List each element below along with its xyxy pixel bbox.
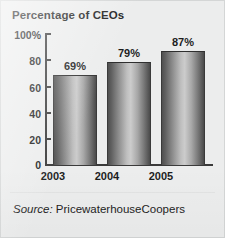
frame-border-bottom [0, 237, 225, 238]
x-tick-label-2004: 2004 [77, 170, 137, 182]
bar-2003[interactable] [53, 75, 97, 165]
footer-divider [10, 192, 215, 193]
y-tick-label-100: 100% [1, 30, 41, 41]
x-tick-label-2005: 2005 [131, 170, 191, 182]
bar-2005[interactable] [161, 51, 205, 165]
y-tick-label-60: 60 [1, 83, 41, 94]
source-organization: PricewaterhouseCoopers [53, 203, 185, 215]
x-tick-label-2003: 2003 [23, 170, 83, 182]
source-label: Source: [13, 203, 53, 215]
bar-value-2004: 79% [118, 47, 140, 59]
bar-value-2005: 87% [172, 36, 194, 48]
bar-2004[interactable] [107, 62, 151, 165]
frame-border-right [224, 0, 225, 238]
y-tick-label-20: 20 [1, 135, 41, 146]
frame-border-top [0, 0, 225, 1]
y-tick-label-0: 0 [1, 160, 41, 171]
chart-figure: Percentage of CEOs 100% 80 60 40 20 0 69… [0, 0, 225, 238]
source-note: Source: PricewaterhouseCoopers [13, 203, 185, 215]
plot-area: 69% 79% 87% [45, 34, 212, 165]
y-tick-label-40: 40 [1, 109, 41, 120]
frame-border-left [0, 0, 1, 238]
y-tick-label-80: 80 [1, 56, 41, 67]
bar-value-2003: 69% [64, 60, 86, 72]
